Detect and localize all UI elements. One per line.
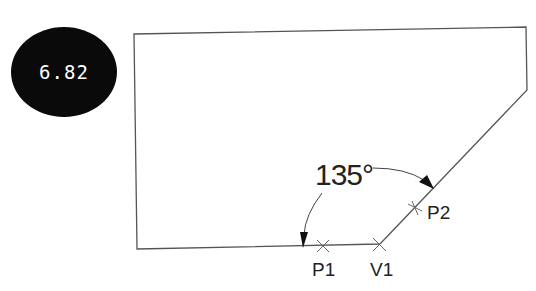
p1-marker <box>317 240 329 252</box>
angle-diagram <box>0 0 536 291</box>
point-label-p1: P1 <box>312 259 335 281</box>
angle-arc-right <box>373 168 424 180</box>
angle-arc-left <box>304 193 322 235</box>
arrowhead-right <box>419 175 434 189</box>
shape-outline <box>134 27 527 249</box>
point-label-v1: V1 <box>370 259 393 281</box>
angle-label: 135° <box>315 158 373 192</box>
point-label-p2: P2 <box>427 202 450 224</box>
